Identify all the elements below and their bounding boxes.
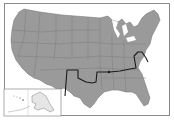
route-marker-dot <box>108 71 110 73</box>
us-map <box>0 0 174 127</box>
